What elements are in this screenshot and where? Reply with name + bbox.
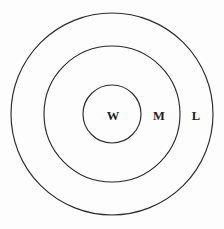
circle-label-w: W xyxy=(107,110,120,123)
venn-diagram-canvas: W M L xyxy=(0,0,224,229)
circle-label-m: M xyxy=(153,110,165,123)
circle-label-l: L xyxy=(192,110,201,123)
